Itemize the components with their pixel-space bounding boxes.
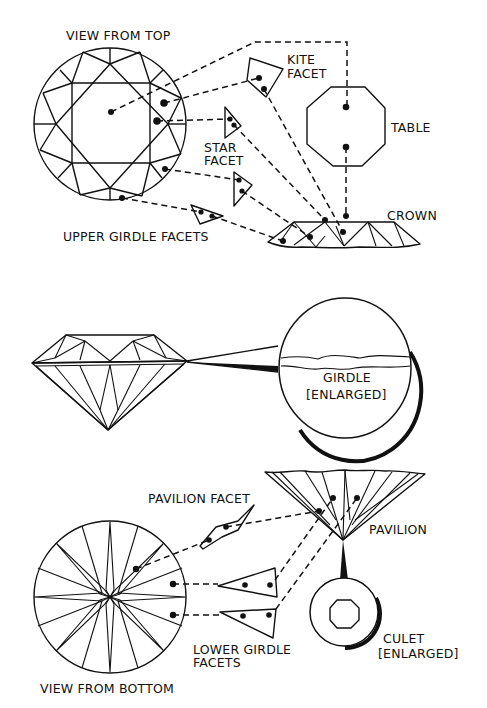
table-shape [307,87,385,166]
crown-label: CROWN [387,208,437,223]
pavilion-label: PAVILION [369,522,427,537]
star-facet-label-line2: FACET [204,153,244,168]
diamond-anatomy-diagram: VIEW FROM TOP KITE FACET TABLE STAR FACE… [0,0,487,708]
view-from-top-label: VIEW FROM TOP [66,28,171,43]
lower-girdle-facet-shape-2 [220,609,276,638]
girdle-enlarged-callout [187,298,421,461]
culet-label-line2: [ENLARGED] [378,646,459,661]
girdle-label-line1: GIRDLE [323,370,371,385]
culet-label-line1: CULET [383,631,425,646]
top-view-diagram [34,48,186,201]
lower-girdle-facet-shape-1 [218,568,277,597]
upper-girdle-facets-label: UPPER GIRDLE FACETS [63,229,209,244]
table-label: TABLE [390,120,431,135]
girdle-label-line2: [ENLARGED] [306,387,387,402]
side-view-diamond [32,335,187,430]
upper-girdle-facet-shape-2 [191,205,223,224]
kite-facet-label-line2: FACET [287,66,327,81]
view-from-bottom-label: VIEW FROM BOTTOM [40,681,174,696]
culet-enlarged-callout [310,540,380,648]
kite-facet-label-line1: KITE [287,52,315,67]
upper-girdle-facet-shape-1 [234,172,252,206]
star-facet-shape [225,107,241,138]
pavilion-facet-label: PAVILION FACET [148,491,250,506]
bottom-view-diagram [34,521,186,673]
lower-girdle-label-line2: FACETS [193,655,241,670]
